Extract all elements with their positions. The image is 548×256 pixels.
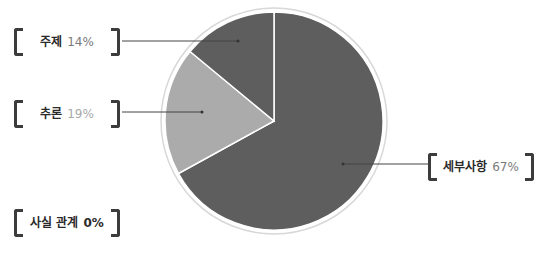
leader-dot-topic [237, 40, 240, 43]
label-inference: 추론19% [14, 100, 120, 124]
label-topic-name: 주제 [40, 35, 62, 49]
label-topic: 주제14% [14, 28, 120, 52]
label-topic-text: 주제14% [14, 32, 120, 49]
leader-dot-detail [342, 163, 345, 166]
leader-dot-inference [201, 111, 204, 114]
bracket-right [111, 28, 120, 56]
bracket-left [428, 153, 437, 181]
label-topic-pct: 14% [67, 35, 94, 49]
label-detail-text: 세부사항67% [428, 157, 534, 174]
label-fact-name: 사실 관계 [30, 216, 78, 230]
pie-slices [165, 12, 383, 230]
label-detail-pct: 67% [492, 160, 519, 174]
label-detail: 세부사항67% [428, 153, 534, 177]
label-fact-pct: 0% [83, 216, 103, 230]
label-detail-name: 세부사항 [443, 160, 487, 174]
bracket-left [14, 28, 23, 56]
label-inference-name: 추론 [40, 107, 62, 121]
bracket-left [14, 209, 23, 237]
bracket-left [14, 100, 23, 128]
label-fact-text: 사실 관계0% [14, 213, 120, 230]
label-fact: 사실 관계0% [14, 209, 120, 233]
bracket-right [111, 209, 120, 237]
bracket-right [525, 153, 534, 181]
bracket-right [111, 100, 120, 128]
label-inference-text: 추론19% [14, 104, 120, 121]
label-inference-pct: 19% [67, 107, 94, 121]
